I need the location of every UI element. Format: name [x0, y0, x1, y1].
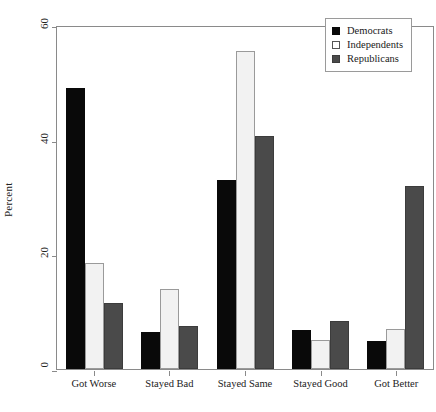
- figure-caption: [0, 404, 436, 412]
- bar-democrats-got-better: [367, 341, 386, 369]
- x-axis-tick-mark: [94, 371, 95, 376]
- x-axis-tick-label: Got Worse: [71, 378, 116, 389]
- legend-item: Independents: [332, 38, 403, 52]
- legend-label-democrats: Democrats: [347, 26, 392, 37]
- x-axis-tick-mark: [396, 371, 397, 376]
- legend-item: Democrats: [332, 24, 403, 38]
- legend-swatch-republicans-icon: [332, 55, 340, 63]
- bar-independents-stayed-good: [311, 340, 330, 369]
- legend-label-independents: Independents: [347, 40, 403, 51]
- bar-group: [358, 27, 433, 369]
- legend-label-republicans: Republicans: [347, 54, 399, 65]
- x-axis-tick-label: Stayed Good: [293, 378, 348, 389]
- y-axis-tick-label: 20: [39, 247, 50, 258]
- bar-group: [132, 27, 207, 369]
- bar-democrats-stayed-bad: [141, 332, 160, 369]
- y-axis-tick-label: 60: [39, 18, 50, 29]
- bar-independents-got-better: [386, 329, 405, 369]
- bar-republicans-got-worse: [104, 303, 123, 369]
- bar-independents-stayed-bad: [160, 289, 179, 369]
- bar-democrats-stayed-good: [292, 330, 311, 369]
- y-axis-tick-label: 40: [39, 133, 50, 144]
- bar-group: [283, 27, 358, 369]
- bar-independents-got-worse: [85, 263, 104, 369]
- bar-groups: [57, 27, 433, 369]
- bar-democrats-got-worse: [66, 88, 85, 369]
- x-axis-tick-label: Stayed Same: [218, 378, 273, 389]
- bar-chart-figure: Percent 0204060 Got WorseStayed BadStaye…: [0, 0, 436, 412]
- bar-republicans-stayed-bad: [179, 326, 198, 369]
- legend-swatch-democrats-icon: [332, 27, 340, 35]
- bar-democrats-stayed-same: [217, 180, 236, 369]
- legend-item: Republicans: [332, 52, 403, 66]
- bar-group: [57, 27, 132, 369]
- y-axis-tick-label: 0: [39, 362, 50, 368]
- bar-independents-stayed-same: [236, 51, 255, 369]
- x-axis-tick-mark: [169, 371, 170, 376]
- x-axis-tick-label: Got Better: [374, 378, 418, 389]
- bar-republicans-got-better: [405, 186, 424, 369]
- chart-legend: Democrats Independents Republicans: [325, 18, 412, 72]
- y-axis-tick-mark: [52, 371, 57, 372]
- y-axis-label: Percent: [2, 150, 16, 250]
- x-axis-tick-label: Stayed Bad: [145, 378, 193, 389]
- legend-swatch-independents-icon: [332, 41, 340, 49]
- bar-republicans-stayed-good: [330, 321, 349, 369]
- bar-group: [207, 27, 282, 369]
- bar-republicans-stayed-same: [255, 136, 274, 369]
- x-axis-tick-mark: [321, 371, 322, 376]
- plot-area: 0204060: [56, 26, 434, 370]
- x-axis-tick-mark: [245, 371, 246, 376]
